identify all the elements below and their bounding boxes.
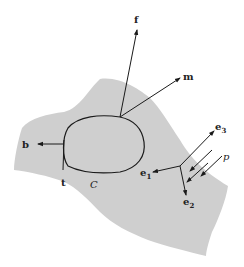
e3-label: e3 — [215, 122, 226, 134]
diagram-canvas: f m b t C p e1 e2 e3 — [0, 0, 244, 267]
curve-c-label: C — [90, 180, 98, 190]
body-region — [14, 79, 228, 256]
e1-label: e1 — [140, 168, 151, 180]
m-label: m — [183, 72, 194, 82]
t-label: t — [61, 178, 66, 188]
f-label: f — [134, 15, 138, 25]
diagram-graphic — [0, 0, 244, 267]
e2-label: e2 — [183, 197, 194, 209]
b-label: b — [22, 140, 29, 150]
p-label: p — [223, 152, 229, 162]
